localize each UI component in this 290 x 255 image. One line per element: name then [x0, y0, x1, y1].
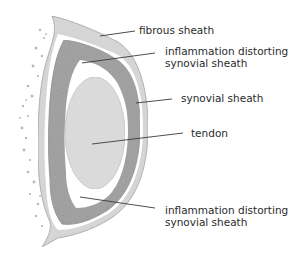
- leader-fibrous-sheath: [100, 31, 135, 36]
- tendon-shape: [65, 77, 125, 189]
- tendon-sheath-diagram: fibrous sheath inflammation distorting s…: [0, 0, 290, 255]
- label-synovial-sheath: synovial sheath: [181, 92, 263, 104]
- label-inflammation-top: inflammation distorting synovial sheath: [165, 45, 288, 69]
- label-tendon: tendon: [191, 127, 228, 139]
- label-inflammation-bottom: inflammation distorting synovial sheath: [165, 204, 288, 228]
- label-fibrous-sheath: fibrous sheath: [139, 24, 214, 36]
